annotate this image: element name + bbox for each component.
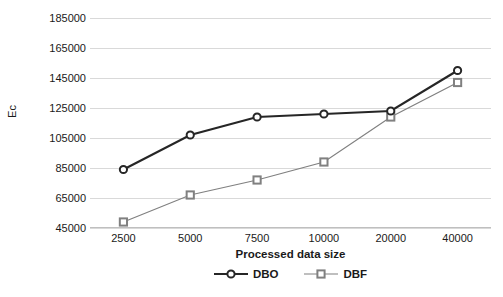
x-axis-title: Processed data size xyxy=(90,248,491,260)
x-tick-label: 2500 xyxy=(111,232,135,244)
y-tick-label: 125000 xyxy=(18,102,86,114)
chart-container: Ec 1850001650001450001250001050008500065… xyxy=(0,0,503,297)
y-tick-label: 85000 xyxy=(18,162,86,174)
y-tick-label: 105000 xyxy=(18,132,86,144)
legend-swatch-square-icon xyxy=(304,268,338,280)
x-tick-label: 20000 xyxy=(375,232,406,244)
y-axis-tick-labels: 1850001650001450001250001050008500065000… xyxy=(14,0,86,297)
x-tick-label: 5000 xyxy=(178,232,202,244)
y-tick-label: 45000 xyxy=(18,222,86,234)
x-tick-label: 40000 xyxy=(442,232,473,244)
x-tick-label: 10000 xyxy=(309,232,340,244)
chart-legend: DBODBF xyxy=(90,268,491,280)
y-tick-label: 165000 xyxy=(18,42,86,54)
legend-swatch-circle-icon xyxy=(214,268,248,280)
y-tick-label: 185000 xyxy=(18,12,86,24)
legend-label: DBO xyxy=(253,268,279,280)
x-tick-label: 7500 xyxy=(245,232,269,244)
y-tick-label: 145000 xyxy=(18,72,86,84)
legend-item-dbf[interactable]: DBF xyxy=(304,268,367,280)
legend-item-dbo[interactable]: DBO xyxy=(214,268,279,280)
y-tick-label: 65000 xyxy=(18,192,86,204)
legend-label: DBF xyxy=(343,268,367,280)
